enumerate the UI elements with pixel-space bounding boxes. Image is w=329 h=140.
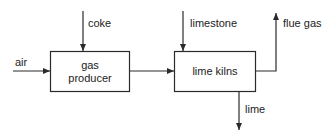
process-flow-diagram: coke air limestone flue gas lime gas pro… xyxy=(0,0,329,140)
lime-kilns-text: lime kilns xyxy=(192,65,237,78)
flue-gas-arrow xyxy=(256,13,276,71)
flue-gas-label: flue gas xyxy=(283,17,322,30)
lime-label: lime xyxy=(245,103,265,116)
diagram-lines xyxy=(0,0,329,140)
air-label: air xyxy=(15,56,27,69)
gas-producer-label: gas producer xyxy=(51,52,129,91)
lime-kilns-label: lime kilns xyxy=(175,52,255,91)
coke-label: coke xyxy=(88,17,111,30)
gas-producer-line2: producer xyxy=(68,72,111,85)
limestone-label: limestone xyxy=(190,17,237,30)
gas-producer-line1: gas xyxy=(81,59,99,72)
